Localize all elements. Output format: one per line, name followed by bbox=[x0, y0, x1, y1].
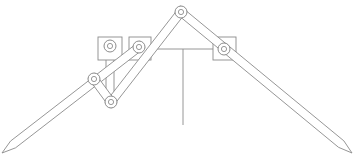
middle-left-pivot-icon bbox=[88, 73, 100, 85]
right-block-pivot-icon bbox=[218, 43, 230, 55]
lower-pivot-icon bbox=[105, 96, 117, 108]
diagram-canvas bbox=[0, 0, 355, 163]
right-long-arm bbox=[175, 6, 352, 153]
block2-pivot-icon bbox=[133, 41, 145, 53]
block1-pivot-icon bbox=[104, 40, 116, 52]
linkage-bars bbox=[2, 6, 352, 153]
linkage-diagram bbox=[0, 0, 355, 163]
left-long-arm bbox=[2, 41, 145, 153]
top-pivot-icon bbox=[175, 6, 187, 18]
